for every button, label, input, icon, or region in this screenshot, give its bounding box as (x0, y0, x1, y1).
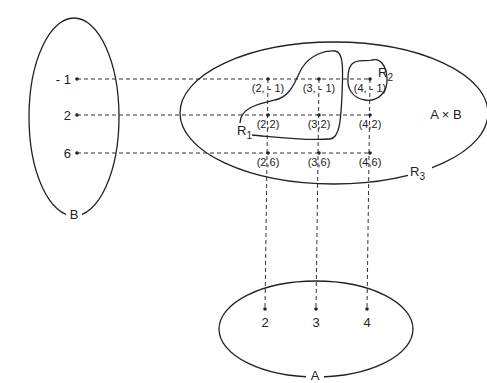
set-b-label: B (70, 207, 79, 222)
b-element: - 1 (56, 72, 71, 87)
set-b-ellipse (29, 18, 119, 216)
pair-label: (4, - 1) (354, 82, 386, 94)
pair-label: (3,6) (308, 156, 331, 168)
relation-r2-label: R2 (378, 65, 393, 83)
a-element: 3 (312, 315, 319, 330)
pair-label: (2,6) (257, 156, 280, 168)
a-element: 2 (261, 315, 268, 330)
set-axb-label: A × B (430, 107, 461, 122)
b-element: 6 (64, 146, 71, 161)
pair-label: (4,6) (359, 156, 382, 168)
cartesian-product-diagram: B A × B A - 1 2 6 2 3 4 (2, - 1) (3, - 1… (0, 0, 487, 383)
b-element: 2 (64, 108, 71, 123)
set-a-label: A (311, 368, 320, 383)
pair-label: (2,2) (257, 118, 280, 130)
pair-label: (3, - 1) (303, 82, 335, 94)
pair-label: (4,2) (359, 118, 382, 130)
pair-label: (3,2) (308, 118, 331, 130)
relation-r1-label: R1 (237, 123, 252, 141)
a-element: 4 (363, 315, 370, 330)
pair-label: (2, - 1) (252, 82, 284, 94)
